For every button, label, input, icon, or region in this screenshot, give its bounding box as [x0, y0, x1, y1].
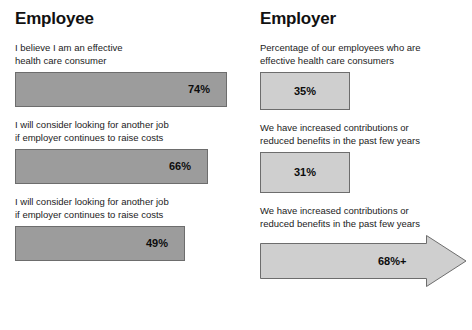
employer-bar-2: 31%	[260, 152, 350, 193]
employee-row-2: I will consider looking for another job …	[15, 118, 250, 184]
employer-caption-1: Percentage of our employees who are effe…	[260, 41, 472, 67]
employer-value-2: 31%	[294, 166, 316, 178]
employee-bar-2: 66%	[15, 149, 208, 184]
employee-value-1: 74%	[188, 83, 226, 95]
employer-caption-3: We have increased contributions or reduc…	[260, 204, 472, 230]
page-bottom-edge	[0, 324, 472, 330]
employer-row-1: Percentage of our employees who are effe…	[260, 41, 472, 110]
employee-row-1: I believe I am an effective health care …	[15, 41, 250, 107]
employee-value-2: 66%	[169, 160, 207, 172]
employee-heading: Employee	[15, 10, 250, 29]
employer-column: Employer Percentage of our employees who…	[250, 0, 472, 330]
employer-heading: Employer	[260, 10, 472, 29]
employee-bar-1: 74%	[15, 72, 227, 107]
employer-row-3: We have increased contributions or reduc…	[260, 204, 472, 287]
employee-caption-3: I will consider looking for another job …	[15, 195, 250, 221]
employer-bar-1: 35%	[260, 72, 350, 110]
employee-bar-3: 49%	[15, 226, 185, 261]
employee-value-3: 49%	[146, 237, 184, 249]
employer-caption-2: We have increased contributions or reduc…	[260, 121, 472, 147]
employer-arrow-3: 68%+	[260, 235, 472, 287]
comparison-chart: Employee I believe I am an effective hea…	[0, 0, 472, 330]
right-arrow-icon	[260, 235, 467, 287]
employee-column: Employee I believe I am an effective hea…	[0, 0, 250, 330]
employer-row-2: We have increased contributions or reduc…	[260, 121, 472, 193]
employer-value-3: 68%+	[378, 235, 406, 287]
employee-caption-2: I will consider looking for another job …	[15, 118, 250, 144]
employee-caption-1: I believe I am an effective health care …	[15, 41, 250, 67]
employee-row-3: I will consider looking for another job …	[15, 195, 250, 261]
employer-value-1: 35%	[294, 85, 316, 97]
